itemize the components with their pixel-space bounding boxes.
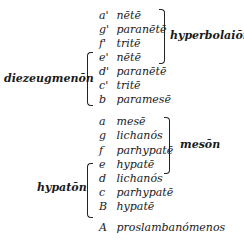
group-label-hyperbolaion: hyperbolaiōn	[170, 29, 244, 42]
note-row: g lichanós	[99, 129, 163, 142]
note-name: tritē	[117, 79, 141, 92]
note-name: paranētē	[117, 65, 167, 78]
note-letter: a	[99, 115, 113, 128]
note-name: lichanós	[117, 172, 163, 185]
note-name: mesē	[117, 115, 146, 128]
note-letter: A	[99, 221, 113, 234]
group-label-hypaton: hypatōn	[37, 181, 87, 194]
note-letter: f'	[99, 37, 113, 50]
note-row: d' paranētē	[99, 65, 166, 78]
note-letter: e'	[99, 51, 113, 64]
note-letter: g'	[99, 23, 113, 36]
note-letter: f	[99, 144, 113, 157]
note-name: lichanós	[117, 129, 163, 142]
note-name: tritē	[117, 37, 141, 50]
note-letter: c'	[99, 79, 113, 92]
hypaton-bracket	[87, 163, 93, 218]
note-letter: e	[99, 158, 113, 171]
note-row: A proslambanómenos	[99, 221, 225, 234]
note-name: nētē	[117, 9, 142, 22]
note-row: c parhypatē	[99, 186, 173, 199]
note-row: e hypatē	[99, 158, 154, 171]
note-row: f parhypatē	[99, 144, 173, 157]
note-name: proslambanómenos	[117, 221, 226, 234]
note-row: a' nētē	[99, 9, 141, 22]
note-letter: d'	[99, 65, 113, 78]
note-name: paramesē	[117, 93, 172, 106]
note-row: c' tritē	[99, 79, 141, 92]
group-label-meson: mesōn	[180, 138, 220, 151]
note-row: B hypatē	[99, 200, 154, 213]
note-name: hypatē	[117, 200, 155, 213]
note-letter: g	[99, 129, 113, 142]
note-name: nētē	[117, 51, 142, 64]
hyperbolaion-bracket	[159, 9, 165, 64]
note-row: g' paranētē	[99, 23, 166, 36]
group-label-diezeugmenon: diezeugmenōn	[4, 72, 94, 85]
note-letter: c	[99, 186, 113, 199]
note-letter: b	[99, 93, 113, 106]
note-name: parhypatē	[117, 186, 174, 199]
note-letter: d	[99, 172, 113, 185]
note-row: a mesē	[99, 115, 146, 128]
note-row: f' tritē	[99, 37, 141, 50]
note-row: b paramesē	[99, 93, 171, 106]
note-row: e' nētē	[99, 51, 141, 64]
note-letter: a'	[99, 9, 113, 22]
note-name: hypatē	[117, 158, 155, 171]
note-row: d lichanós	[99, 172, 163, 185]
meson-bracket	[164, 117, 170, 174]
note-letter: B	[99, 200, 113, 213]
